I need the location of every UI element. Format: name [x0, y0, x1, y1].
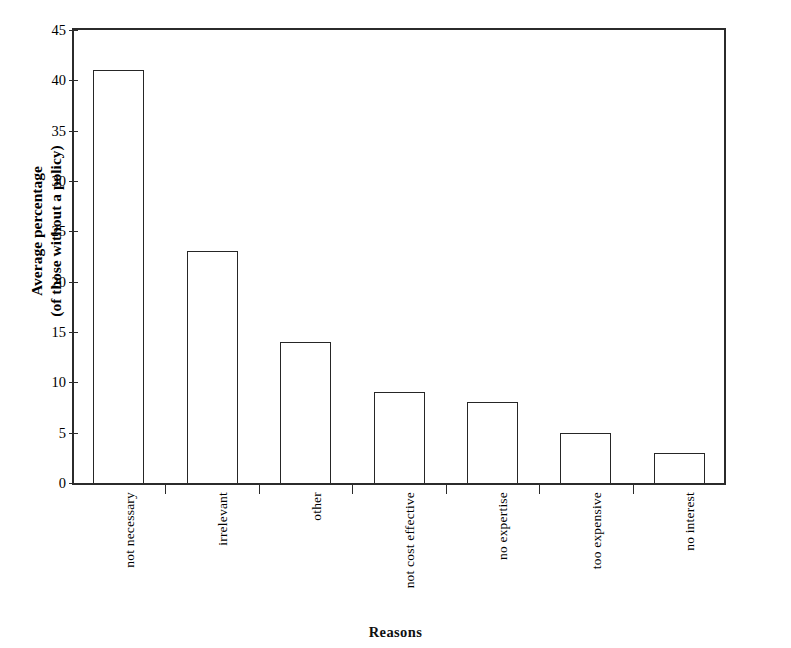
y-axis-tick-label: 0 [59, 475, 66, 492]
bar-chart-figure: Average percentage (of those without a p… [0, 0, 791, 648]
y-axis-tick-label: 25 [52, 223, 67, 240]
y-axis-tick-label: 5 [59, 424, 66, 441]
bar [467, 402, 518, 483]
x-axis-category-label: no interest [682, 492, 698, 551]
y-axis-tick-mark [69, 483, 78, 484]
bar [280, 342, 331, 483]
y-axis-tick-label: 45 [52, 22, 67, 39]
y-axis-tick-label: 40 [52, 72, 67, 89]
y-axis-tick-label: 15 [52, 324, 67, 341]
x-axis-category-label: not necessary [122, 492, 138, 568]
x-axis-title: Reasons [0, 624, 791, 641]
y-axis-tick-label: 10 [52, 374, 67, 391]
x-axis-category-label: other [309, 492, 325, 521]
bar [187, 251, 238, 483]
x-axis-category-label: too expensive [589, 492, 605, 569]
bar [560, 433, 611, 483]
y-axis-tick-label: 20 [52, 273, 67, 290]
y-axis-tick-labels: 051015202530354045 [40, 22, 66, 492]
plot-area [72, 28, 726, 485]
x-axis-category-label: irrelevant [215, 492, 231, 546]
x-axis-category-label: not cost effective [402, 492, 418, 588]
bar [654, 453, 705, 483]
y-axis-tick-label: 35 [52, 122, 67, 139]
bars-layer [74, 30, 724, 483]
x-axis-category-label: no expertise [495, 492, 511, 560]
x-axis-category-labels: not necessaryirrelevantothernot cost eff… [72, 492, 726, 612]
y-axis-tick-label: 30 [52, 173, 67, 190]
bar [93, 70, 144, 483]
bar [374, 392, 425, 483]
